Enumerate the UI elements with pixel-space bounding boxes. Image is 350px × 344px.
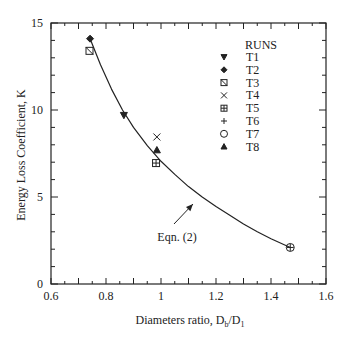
legend-entries: T1T2T3T4T5T6T7T8: [221, 50, 260, 154]
y-tick-label: 15: [31, 16, 43, 30]
fit-curve-eqn-2: [90, 39, 290, 248]
legend-entry-t8: T8: [221, 140, 259, 154]
y-tick-label: 0: [37, 277, 43, 291]
data-point-t3: [86, 47, 93, 54]
data-points: [86, 35, 294, 251]
data-point-t4: [153, 133, 160, 140]
x-tick-label: 0.8: [99, 289, 114, 303]
triangle-down-marker-icon: [221, 55, 227, 60]
data-point-t8: [153, 147, 160, 153]
data-point-t6: [287, 244, 294, 251]
x-tick-label: 1.2: [209, 289, 224, 303]
diamond-marker-icon: [221, 67, 227, 73]
chart: 0.60.811.21.41.6051015 Eqn. (2) RUNS T1T…: [0, 0, 350, 344]
square-slash-line: [86, 47, 93, 54]
x-tick-label: 1.4: [264, 289, 279, 303]
x-tick-label: 0.6: [44, 289, 59, 303]
y-axis-label: Energy Loss Coefficient, K: [14, 89, 28, 221]
data-point-t5: [153, 160, 160, 167]
diamond-marker-icon: [87, 35, 94, 42]
axis-tick-labels: 0.60.811.21.41.6051015: [31, 16, 334, 303]
eqn-2-curve: [90, 39, 290, 248]
circle-marker-icon: [221, 130, 228, 137]
x-tick-label: 1: [158, 289, 164, 303]
data-point-t2: [87, 35, 94, 42]
eqn-annotation: Eqn. (2): [157, 204, 196, 244]
triangle-up-marker-icon: [153, 147, 160, 153]
x-axis-label-sub-1: 1: [240, 320, 244, 329]
y-tick-label: 5: [37, 190, 43, 204]
triangle-up-marker-icon: [221, 144, 227, 149]
annotation-label: Eqn. (2): [157, 230, 196, 244]
x-axis-label-main: Diameters ratio, D: [136, 313, 225, 327]
y-tick-label: 10: [31, 103, 43, 117]
legend: RUNS T1T2T3T4T5T6T7T8: [221, 38, 278, 154]
x-axis-label: Diameters ratio, Db/D1: [136, 313, 245, 329]
x-tick-label: 1.6: [319, 289, 334, 303]
legend-label: T8: [246, 140, 259, 154]
square-slash-line: [221, 80, 227, 86]
x-axis-label-mid: /D: [228, 313, 240, 327]
